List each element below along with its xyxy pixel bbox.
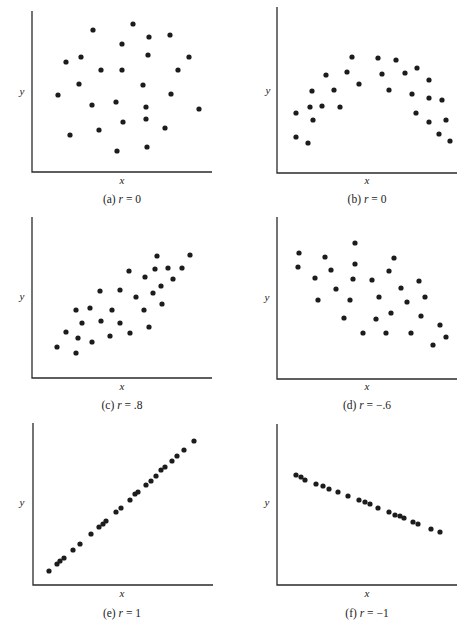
data-points — [46, 438, 196, 573]
data-point — [165, 265, 170, 270]
data-point — [191, 438, 196, 443]
data-point — [391, 255, 396, 260]
data-points — [295, 240, 448, 347]
x-axis-label: x — [364, 380, 370, 392]
data-point — [167, 32, 172, 37]
data-point — [142, 274, 147, 279]
data-point — [73, 350, 78, 355]
data-point — [418, 313, 423, 318]
caption-r-value: = .8 — [122, 399, 143, 411]
data-points — [54, 252, 192, 355]
data-point — [393, 57, 398, 62]
axes — [277, 7, 457, 173]
data-point — [293, 472, 298, 477]
data-point — [347, 297, 352, 302]
data-point — [430, 342, 435, 347]
data-point — [55, 92, 60, 97]
y-axis-label: y — [264, 496, 270, 508]
data-point — [383, 330, 388, 335]
data-point — [168, 91, 173, 96]
axes — [32, 11, 212, 172]
x-axis-label: x — [119, 587, 125, 599]
data-point — [143, 116, 148, 121]
data-point — [130, 21, 135, 26]
data-point — [437, 529, 442, 534]
data-point — [337, 104, 342, 109]
data-point — [328, 267, 333, 272]
data-point — [90, 27, 95, 32]
data-point — [312, 275, 317, 280]
data-points — [55, 21, 201, 153]
data-point — [362, 499, 367, 504]
data-point — [404, 299, 409, 304]
data-point — [414, 65, 419, 70]
data-point — [140, 82, 145, 87]
scatter-panel-b: yx(b) r = 0 — [265, 7, 457, 206]
data-point — [313, 481, 318, 486]
data-point — [107, 333, 112, 338]
data-point — [293, 134, 298, 139]
data-point — [349, 54, 354, 59]
panel-caption: (a) r = 0 — [103, 193, 141, 206]
data-point — [369, 277, 374, 282]
y-axis-label: y — [19, 496, 25, 508]
data-point — [54, 344, 59, 349]
data-point — [159, 301, 164, 306]
caption-label: (d) — [343, 399, 359, 412]
data-point — [148, 478, 153, 483]
data-point — [375, 55, 380, 60]
data-point — [386, 509, 391, 514]
data-point — [436, 131, 441, 136]
data-point — [67, 132, 72, 137]
x-axis-label: x — [119, 380, 125, 392]
data-point — [319, 103, 324, 108]
scatter-panel-e: yx(e) r = 1 — [19, 423, 213, 620]
data-point — [295, 264, 300, 269]
data-point — [70, 547, 75, 552]
data-point — [126, 268, 131, 273]
scatter-panel-a: yx(a) r = 0 — [19, 11, 212, 206]
data-point — [76, 81, 81, 86]
caption-label: (f) — [345, 607, 359, 620]
data-point — [181, 447, 186, 452]
data-point — [127, 330, 132, 335]
data-point — [170, 276, 175, 281]
panel-caption: (e) r = 1 — [103, 607, 141, 620]
y-axis-label: y — [264, 291, 270, 303]
data-point — [447, 138, 452, 143]
data-point — [162, 125, 167, 130]
data-point — [426, 95, 431, 100]
data-point — [144, 144, 149, 149]
data-point — [437, 322, 442, 327]
panel-caption: (d) r = −.6 — [343, 399, 391, 412]
axes — [32, 217, 212, 378]
data-point — [415, 521, 420, 526]
data-point — [375, 505, 380, 510]
data-point — [150, 290, 155, 295]
data-point — [77, 541, 82, 546]
data-point — [307, 104, 312, 109]
data-point — [63, 329, 68, 334]
x-axis-label: x — [364, 174, 370, 186]
data-point — [146, 34, 151, 39]
correlation-scatter-figure: yx(a) r = 0 yx(b) r = 0 yx(c) r = .8 yx(… — [0, 0, 472, 632]
data-point — [79, 320, 84, 325]
data-point — [443, 334, 448, 339]
axes — [277, 217, 457, 379]
data-point — [174, 453, 179, 458]
data-point — [379, 71, 384, 76]
caption-r-value: = 1 — [123, 607, 141, 619]
data-point — [153, 473, 158, 478]
caption-r-value: = 0 — [368, 193, 386, 205]
data-point — [89, 102, 94, 107]
data-point — [309, 88, 314, 93]
data-point — [386, 268, 391, 273]
data-point — [143, 482, 148, 487]
data-point — [326, 486, 331, 491]
data-point — [75, 335, 80, 340]
data-point — [392, 512, 397, 517]
caption-r-value: = 0 — [123, 193, 141, 205]
data-point — [386, 87, 391, 92]
x-axis-label: x — [364, 587, 370, 599]
data-point — [296, 250, 301, 255]
